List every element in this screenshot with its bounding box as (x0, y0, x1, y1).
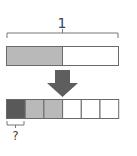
down-arrow-icon (47, 70, 78, 97)
bottom-bar (7, 100, 119, 119)
bottom-cell-1 (7, 100, 26, 119)
fraction-diagram: 1 ? (0, 0, 137, 156)
bottom-cell-4 (63, 100, 82, 119)
question-label: ? (12, 129, 18, 143)
bottom-cell-6 (100, 100, 119, 119)
top-bar (7, 47, 119, 66)
bottom-cell-3 (44, 100, 63, 119)
bottom-cell-5 (81, 100, 100, 119)
whole-brace (7, 29, 118, 38)
part-brace (7, 121, 24, 128)
top-bar-empty-half (63, 47, 119, 66)
top-bar-shaded-half (7, 47, 63, 66)
bottom-cell-2 (25, 100, 44, 119)
whole-label: 1 (58, 15, 67, 31)
